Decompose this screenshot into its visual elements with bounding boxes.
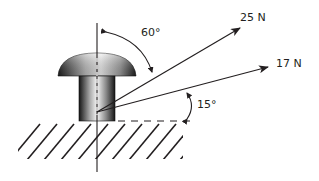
- ground-hatching: [10, 124, 210, 160]
- force-label-17n: 17 N: [276, 58, 302, 69]
- angle-arc-15: [187, 93, 192, 119]
- angle-label-15: 15°: [197, 99, 217, 110]
- angle-label-60: 60°: [141, 27, 161, 38]
- force-label-25n: 25 N: [240, 12, 266, 23]
